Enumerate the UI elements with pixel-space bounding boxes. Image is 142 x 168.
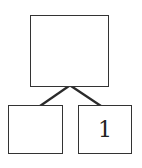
right-child-node: 1 bbox=[78, 105, 132, 154]
right-child-label: 1 bbox=[98, 119, 112, 141]
edge-root-right bbox=[71, 86, 101, 106]
root-node bbox=[30, 15, 109, 87]
edge-root-left bbox=[40, 86, 69, 106]
left-child-node bbox=[8, 105, 63, 154]
